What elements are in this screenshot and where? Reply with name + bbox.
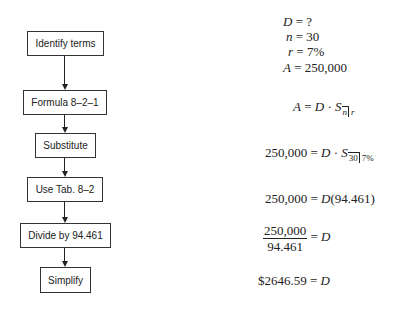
step-divide: Divide by 94.461 [20, 223, 111, 248]
s: S [335, 99, 342, 114]
step-label: Divide by 94.461 [28, 230, 103, 241]
d: D [321, 229, 330, 244]
step-use-table: Use Tab. 8–2 [27, 177, 103, 202]
val: 30 [306, 29, 319, 44]
val: ? [306, 14, 312, 29]
connector-line [64, 115, 65, 127]
lhs: $2646.59 [258, 273, 307, 288]
divide-equation: 250,000 94.461 = D [263, 224, 330, 253]
table-equation: 250,000 = D(94.461) [265, 192, 375, 205]
connector-line [64, 248, 65, 261]
step-label: Use Tab. 8–2 [36, 184, 95, 195]
substitute-equation: 250,000 = D · S307% [265, 146, 374, 159]
op: = [304, 99, 311, 114]
step-label: Substitute [43, 140, 87, 151]
var: A [283, 60, 291, 75]
step-label: Simplify [48, 275, 83, 286]
step-identify-terms: Identify terms [27, 31, 104, 56]
d: D [315, 99, 324, 114]
simplify-equation: $2646.59 = D [258, 274, 330, 287]
op: = [296, 14, 303, 29]
sub-n: 30 [348, 152, 360, 163]
formula-equation: A = D · Snr [293, 100, 355, 113]
op: = [296, 44, 303, 59]
step-label: Formula 8–2–1 [31, 97, 98, 108]
term-d: D = ? [283, 15, 312, 28]
var: r [288, 44, 293, 59]
lhs: 250,000 [265, 191, 307, 206]
step-formula: Formula 8–2–1 [23, 90, 107, 115]
d: D [321, 273, 330, 288]
s: S [341, 145, 348, 160]
lhs: A [293, 99, 301, 114]
denominator: 94.461 [267, 239, 303, 253]
sub-r: r [351, 107, 355, 117]
connector-line [64, 56, 65, 85]
lhs: 250,000 [265, 145, 307, 160]
step-label: Identify terms [35, 38, 95, 49]
sub-n: n [342, 106, 350, 117]
op: = [294, 60, 301, 75]
connector-line [64, 202, 65, 217]
fraction: 250,000 94.461 [263, 224, 307, 253]
val: 250,000 [305, 60, 347, 75]
op: = [296, 29, 303, 44]
step-simplify: Simplify [40, 267, 91, 293]
var: D [283, 14, 292, 29]
term-n: n = 30 [286, 30, 319, 43]
term-r: r = 7% [288, 45, 324, 58]
rhs: (94.461) [330, 191, 374, 206]
var: n [286, 29, 293, 44]
numerator: 250,000 [263, 224, 307, 239]
op: = [311, 145, 318, 160]
op: = [310, 273, 317, 288]
term-a: A = 250,000 [283, 61, 347, 74]
connector-line [64, 158, 65, 171]
dot: · [334, 145, 338, 160]
val: 7% [307, 44, 324, 59]
dot: · [327, 99, 331, 114]
op: = [311, 191, 318, 206]
op: = [311, 229, 318, 244]
step-substitute: Substitute [35, 133, 96, 158]
d: D [321, 145, 330, 160]
sub-r: 7% [362, 153, 374, 163]
